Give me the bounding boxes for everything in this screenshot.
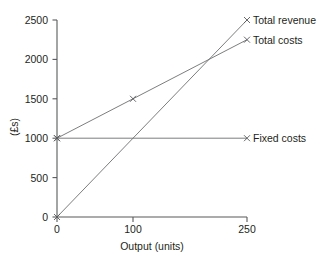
x-tick-label-100: 100	[124, 223, 142, 235]
series-label-total-revenue: Total revenue	[253, 14, 316, 26]
y-tick-label-2000: 2000	[25, 53, 49, 65]
y-tick-label-2500: 2500	[25, 14, 49, 26]
series-label-total-costs: Total costs	[253, 34, 303, 46]
x-axis-title: Output (units)	[120, 240, 184, 252]
y-tick-label-1500: 1500	[25, 93, 49, 105]
chart-canvas: 2500 2000 1500 1000 500 0 0 100 250 (£s)…	[0, 0, 317, 258]
break-even-chart: 2500 2000 1500 1000 500 0 0 100 250 (£s)…	[0, 0, 317, 258]
y-tick-label-500: 500	[30, 172, 48, 184]
y-tick-label-0: 0	[42, 211, 48, 223]
y-tick-label-1000: 1000	[25, 132, 49, 144]
series-label-fixed-costs: Fixed costs	[253, 132, 306, 144]
series-line-total-revenue	[57, 20, 247, 217]
y-axis-title: (£s)	[8, 118, 20, 136]
series-marker-total-costs-end	[244, 37, 250, 43]
x-tick-label-0: 0	[54, 223, 60, 235]
x-tick-label-250: 250	[238, 223, 256, 235]
series-line-total-costs	[57, 40, 247, 139]
series-marker-total-costs-mid	[130, 96, 136, 102]
series-marker-total-revenue-end	[244, 17, 250, 23]
